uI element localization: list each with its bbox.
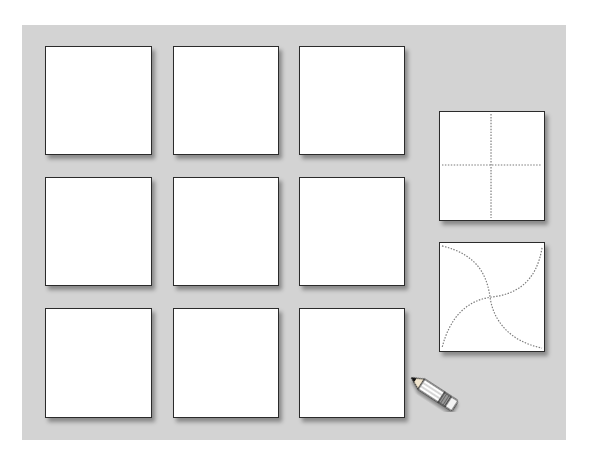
blank-tile-r3c2[interactable] xyxy=(173,308,279,418)
blank-tile-r2c3[interactable] xyxy=(299,177,405,286)
blank-tile-r2c2[interactable] xyxy=(173,177,279,286)
pencil-icon xyxy=(408,372,466,412)
blank-tile-r2c1[interactable] xyxy=(45,177,152,286)
dotted-curve-lines xyxy=(440,243,544,351)
blank-tile-r3c3[interactable] xyxy=(299,308,405,418)
blank-tile-r1c2[interactable] xyxy=(173,46,279,155)
blank-tile-r1c3[interactable] xyxy=(299,46,405,155)
dotted-cross-lines xyxy=(440,112,544,220)
blank-tile-r1c1[interactable] xyxy=(45,46,152,155)
example-tile-curved-pinwheel xyxy=(439,242,545,352)
blank-tile-r3c1[interactable] xyxy=(45,308,152,418)
example-tile-straight-cross xyxy=(439,111,545,221)
